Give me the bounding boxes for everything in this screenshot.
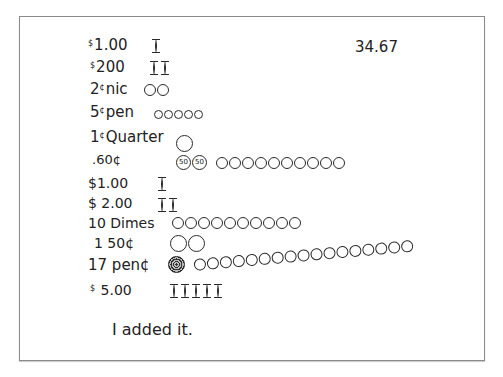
dime-icon — [172, 217, 184, 229]
coin-icon — [294, 157, 306, 169]
scribbled-coin-icon — [168, 256, 185, 273]
dollar-bill-icon — [214, 284, 222, 298]
dollar-bill-icon — [150, 61, 158, 75]
dollar-bill-icon — [152, 39, 160, 53]
penny-icon — [323, 246, 336, 259]
penny-icon — [297, 248, 310, 261]
row-label-10: 1 50¢ — [94, 234, 134, 252]
coin-icon — [255, 157, 267, 169]
row-marks-5 — [176, 135, 194, 152]
penny-icon — [193, 257, 206, 270]
row-marks-10 — [170, 235, 206, 252]
coin-icon — [216, 157, 228, 169]
row-marks-2 — [150, 61, 172, 75]
coin-icon — [333, 157, 345, 169]
penny-icon — [174, 110, 183, 119]
total-amount: 34.67 — [355, 38, 398, 56]
half-dollar-icon — [188, 235, 205, 252]
row-label-8: $ 2.00 — [88, 194, 133, 212]
row-label-7: $1.00 — [88, 174, 128, 192]
penny-icon — [206, 256, 219, 269]
penny-icon — [258, 252, 271, 265]
penny-icon — [184, 110, 193, 119]
dime-icon — [198, 217, 210, 229]
penny-icon — [232, 254, 245, 267]
quarter-icon — [176, 135, 193, 152]
dime-icon — [211, 217, 223, 229]
half-dollar-icon: 50 — [176, 155, 191, 170]
row-marks-12 — [170, 284, 225, 298]
penny-icon — [271, 251, 284, 264]
coin-icon — [229, 157, 241, 169]
penny-icon — [245, 253, 258, 266]
penny-icon — [219, 255, 232, 268]
coin-icon — [307, 157, 319, 169]
row-label-12: $ 5.00 — [90, 281, 132, 299]
row-label-1: $1.00 — [88, 36, 128, 54]
dime-icon — [237, 217, 249, 229]
dime-icon — [224, 217, 236, 229]
coin-icon — [242, 157, 254, 169]
dime-icon — [276, 217, 288, 229]
dollar-sign: $ — [88, 39, 93, 48]
row-marks-7 — [158, 177, 169, 191]
dollar-bill-icon — [170, 284, 178, 298]
row-marks-3 — [144, 84, 170, 96]
coin-icon — [268, 157, 280, 169]
dollar-bill-icon — [181, 284, 189, 298]
row-label-4: 5¢pen — [90, 103, 134, 121]
student-note: I added it. — [112, 320, 193, 339]
row-label-2: $200 — [90, 58, 125, 76]
nickel-icon — [157, 84, 169, 96]
penny-icon — [388, 240, 401, 253]
row-marks-9 — [172, 217, 302, 229]
penny-icon — [375, 242, 388, 255]
row-marks-8 — [158, 198, 180, 212]
dollar-bill-icon — [158, 198, 166, 212]
dollar-bill-icon — [203, 284, 211, 298]
penny-icon — [310, 247, 323, 260]
penny-icon — [401, 239, 414, 252]
half-dollar-icon — [170, 235, 187, 252]
penny-icon — [194, 110, 203, 119]
penny-icon — [362, 243, 375, 256]
row-marks-4 — [154, 110, 204, 119]
penny-icon — [349, 244, 362, 257]
coin-icon — [281, 157, 293, 169]
dime-icon — [250, 217, 262, 229]
row-label-6: .60¢ — [92, 151, 121, 169]
dollar-bill-icon — [161, 61, 169, 75]
penny-icon — [284, 250, 297, 263]
row-label-5: 1¢Quarter — [90, 128, 164, 146]
penny-icon — [164, 110, 173, 119]
dollar-bill-icon — [192, 284, 200, 298]
dime-icon — [289, 217, 301, 229]
dollar-bill-icon — [169, 198, 177, 212]
row-label-3: 2¢nic — [90, 80, 128, 98]
penny-icon — [336, 245, 349, 258]
row-marks-1 — [152, 39, 163, 53]
nickel-icon — [144, 84, 156, 96]
dime-icon — [263, 217, 275, 229]
row-label-9: 10 Dimes — [88, 214, 154, 232]
row-marks-11 — [168, 256, 415, 273]
row-label-11: 17 pen¢ — [88, 256, 150, 274]
row-marks-6: 5050 — [176, 155, 346, 170]
penny-icon — [154, 110, 163, 119]
coin-icon — [320, 157, 332, 169]
half-dollar-icon: 50 — [192, 155, 207, 170]
dollar-bill-icon — [158, 177, 166, 191]
dime-icon — [185, 217, 197, 229]
